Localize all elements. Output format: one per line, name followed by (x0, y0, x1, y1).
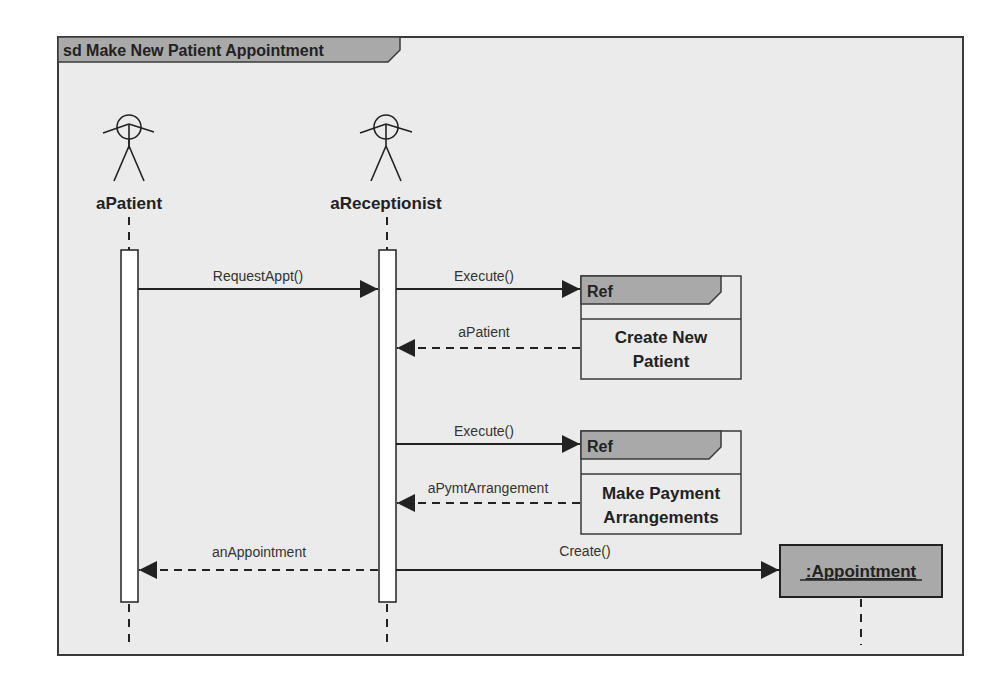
svg-text:Execute(): Execute() (454, 268, 514, 284)
ref-tag: Ref (587, 283, 613, 300)
lifeline-label-patient: aPatient (96, 194, 162, 213)
svg-text:Create New: Create New (615, 328, 708, 347)
svg-text:aPymtArrangement: aPymtArrangement (428, 480, 549, 496)
actor-receptionist-icon (360, 115, 412, 181)
ref-tag: Ref (587, 438, 613, 455)
frame-title-tab: sd Make New Patient Appointment (58, 37, 400, 62)
lifeline-label-receptionist: aReceptionist (330, 194, 442, 213)
frame-title: sd Make New Patient Appointment (63, 42, 324, 59)
message-return-apatient: aPatient (397, 324, 580, 348)
object-appointment-label: :Appointment (806, 562, 917, 581)
actor-patient-icon (102, 115, 154, 181)
ref-create-new-patient: Ref Create New Patient (581, 276, 741, 379)
svg-text:Create(): Create() (559, 543, 610, 559)
svg-text:anAppointment: anAppointment (212, 544, 306, 560)
activation-bar-receptionist (379, 250, 396, 602)
activation-bar-patient (121, 250, 138, 602)
message-return-apymtarrangement: aPymtArrangement (397, 480, 580, 503)
svg-text:Patient: Patient (633, 352, 690, 371)
message-request-appt: RequestAppt() (138, 268, 378, 289)
svg-text:Arrangements: Arrangements (603, 508, 718, 527)
message-execute-1: Execute() (396, 268, 580, 289)
svg-text:Execute(): Execute() (454, 423, 514, 439)
svg-text:aPatient: aPatient (458, 324, 509, 340)
message-execute-2: Execute() (396, 423, 580, 444)
message-create: Create() (396, 543, 779, 570)
ref-make-payment-arrangements: Ref Make Payment Arrangements (581, 431, 741, 534)
sequence-diagram: sd Make New Patient Appointment aPatient… (0, 0, 1007, 678)
object-appointment: :Appointment (780, 545, 942, 597)
svg-text:RequestAppt(): RequestAppt() (213, 268, 303, 284)
message-return-anappointment: anAppointment (139, 544, 378, 570)
svg-text:Make Payment: Make Payment (602, 484, 720, 503)
